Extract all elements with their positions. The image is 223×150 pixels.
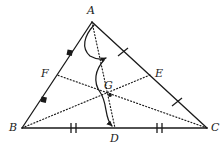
tick-AE bbox=[118, 48, 128, 56]
arc-arrow-A-to-G bbox=[85, 25, 106, 59]
vertex-label-C: C bbox=[211, 122, 219, 133]
triangle-sides bbox=[22, 22, 207, 128]
vertex-label-A: A bbox=[87, 5, 95, 16]
centroid-point-G bbox=[108, 93, 112, 97]
medians bbox=[22, 22, 207, 128]
point-label-E: E bbox=[155, 68, 163, 79]
square-marker-AF bbox=[66, 49, 72, 55]
point-label-G: G bbox=[104, 80, 113, 91]
median-AD bbox=[92, 22, 115, 128]
point-label-D: D bbox=[110, 133, 119, 144]
figure-canvas bbox=[0, 0, 223, 150]
geometry-figure: A B C D E F G bbox=[0, 0, 223, 150]
point-label-F: F bbox=[41, 68, 49, 79]
square-marker-FB bbox=[40, 96, 46, 102]
vertex-label-B: B bbox=[9, 122, 17, 133]
tick-EC bbox=[172, 98, 182, 106]
